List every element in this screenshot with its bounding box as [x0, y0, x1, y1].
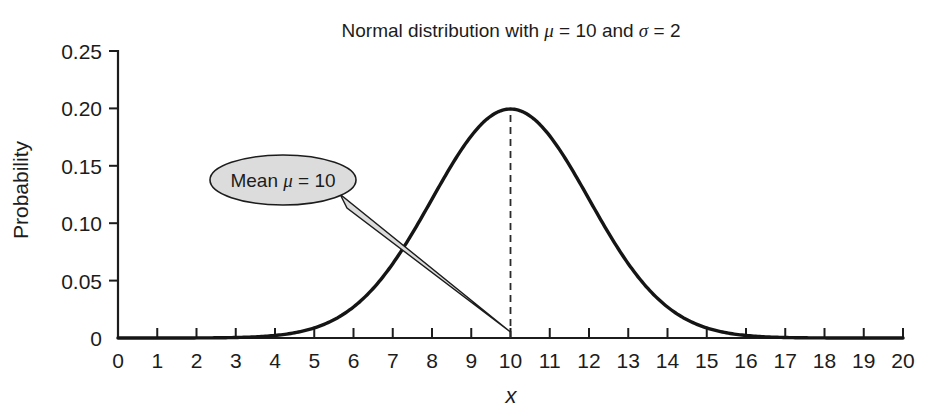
x-tick-label: 20	[891, 349, 914, 372]
y-tick-label: 0.20	[61, 97, 102, 120]
mu-symbol-callout: μ	[282, 170, 293, 191]
y-tick-label: 0.25	[61, 40, 102, 63]
x-axis-title: x	[505, 383, 518, 408]
x-tick-label: 17	[774, 349, 797, 372]
y-tick-label: 0.10	[61, 212, 102, 235]
y-tick-label: 0.05	[61, 270, 102, 293]
y-tick-label: 0.15	[61, 155, 102, 178]
x-tick-label: 0	[112, 349, 124, 372]
x-tick-label: 11	[539, 349, 561, 372]
x-tick-label: 15	[695, 349, 718, 372]
chart-title-prefix: Normal distribution with	[342, 20, 545, 41]
x-tick-label: 19	[852, 349, 875, 372]
callout-suffix: = 10	[293, 170, 336, 191]
x-tick-label: 18	[813, 349, 836, 372]
mu-symbol-title: μ	[543, 20, 554, 41]
x-tick-label: 1	[151, 349, 163, 372]
x-tick-label: 5	[308, 349, 320, 372]
x-tick-label: 14	[656, 349, 680, 372]
x-tick-label: 3	[230, 349, 242, 372]
chart-title: Normal distribution with μ = 10 and σ = …	[342, 20, 681, 41]
x-tick-label: 7	[387, 349, 399, 372]
x-tick-label: 8	[426, 349, 438, 372]
x-tick-label: 9	[465, 349, 477, 372]
x-tick-label: 6	[348, 349, 360, 372]
callout-prefix: Mean	[230, 170, 283, 191]
x-tick-label: 10	[499, 349, 522, 372]
x-tick-label: 4	[269, 349, 281, 372]
chart-title-mu-eq: = 10 and	[554, 20, 639, 41]
chart-container: Normal distribution with μ = 10 and σ = …	[0, 0, 944, 420]
x-tick-label: 2	[191, 349, 203, 372]
x-tick-label: 12	[577, 349, 600, 372]
y-tick-label: 0	[90, 327, 102, 350]
y-axis-title: Probability	[9, 140, 32, 239]
chart-title-sigma-eq: = 2	[648, 20, 680, 41]
x-axis-tick-labels: 01234567891011121314151617181920	[112, 349, 915, 372]
normal-distribution-chart: Normal distribution with μ = 10 and σ = …	[0, 0, 944, 420]
x-tick-label: 13	[617, 349, 640, 372]
x-tick-label: 16	[734, 349, 757, 372]
mean-callout-label: Mean μ = 10	[230, 170, 335, 191]
